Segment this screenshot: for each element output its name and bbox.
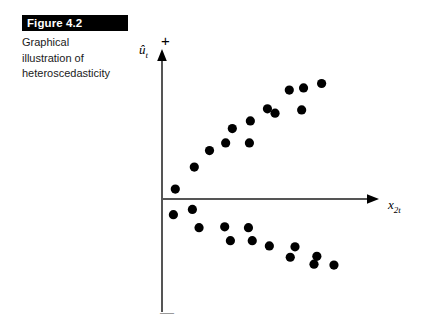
scatter-point	[171, 185, 180, 194]
x-axis-label: x2t	[388, 197, 401, 215]
scatter-point	[188, 205, 197, 214]
scatter-point	[246, 116, 255, 125]
scatter-point	[194, 223, 203, 232]
scatter-point	[169, 210, 178, 219]
scatter-point	[290, 242, 299, 251]
scatter-plot: ût x2t + —	[0, 0, 425, 324]
scatter-point	[285, 86, 294, 95]
positive-sign-label: +	[161, 33, 170, 48]
x-axis-label-subscript: 2t	[394, 205, 401, 215]
scatter-point	[205, 146, 214, 155]
y-axis-arrowhead	[157, 49, 167, 61]
y-axis	[157, 49, 167, 312]
scatter-point	[190, 163, 199, 172]
scatter-point	[245, 138, 254, 147]
plot-canvas	[0, 0, 425, 324]
scatter-point	[228, 124, 237, 133]
scatter-point	[244, 223, 253, 232]
scatter-point	[297, 105, 306, 114]
y-axis-label-subscript: t	[146, 50, 149, 60]
scatter-point	[299, 83, 308, 92]
negative-sign-label: —	[160, 305, 174, 319]
scatter-point	[317, 79, 326, 88]
scatter-point	[220, 222, 229, 231]
scatter-series-negative	[169, 205, 339, 270]
scatter-point	[309, 260, 318, 269]
scatter-point	[329, 260, 338, 269]
scatter-point	[265, 241, 274, 250]
x-axis-arrowhead	[367, 194, 379, 204]
scatter-series-positive	[171, 79, 327, 194]
scatter-point	[286, 253, 295, 262]
scatter-point	[270, 109, 279, 118]
scatter-point	[221, 138, 230, 147]
scatter-point	[226, 236, 235, 245]
y-axis-label: ût	[139, 42, 148, 60]
scatter-point	[248, 236, 257, 245]
x-axis	[162, 194, 379, 204]
scatter-point	[312, 252, 321, 261]
figure-page: Figure 4.2 Graphical illustration of het…	[0, 0, 425, 324]
